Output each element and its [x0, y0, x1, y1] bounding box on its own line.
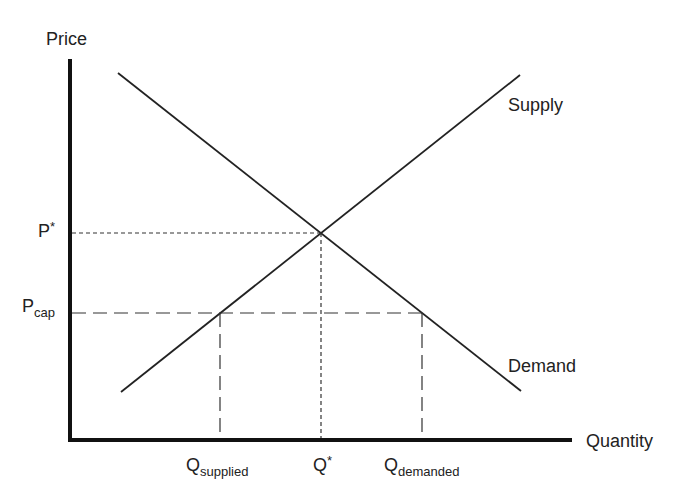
price-cap-diagram [0, 0, 689, 503]
q-star-label: Q* [313, 456, 332, 474]
supply-label: Supply [508, 96, 563, 114]
q-supplied-main: Q [186, 455, 200, 475]
p-star-mark: * [50, 219, 55, 234]
q-demanded-main: Q [384, 455, 398, 475]
q-supplied-label: Qsupplied [186, 456, 248, 474]
q-star-mark: * [327, 453, 332, 468]
q-star-main: Q [313, 455, 327, 475]
p-cap-main: P [22, 296, 34, 316]
q-demanded-label: Qdemanded [384, 456, 459, 474]
q-demanded-sub: demanded [398, 464, 459, 479]
y-axis-label: Price [46, 30, 87, 48]
p-star-label: P* [38, 222, 55, 240]
p-cap-sub: cap [34, 305, 55, 320]
q-supplied-sub: supplied [200, 464, 248, 479]
demand-curve [118, 73, 521, 391]
x-axis-label: Quantity [586, 432, 653, 450]
p-cap-label: Pcap [22, 297, 55, 315]
p-star-main: P [38, 221, 50, 241]
demand-label: Demand [508, 357, 576, 375]
